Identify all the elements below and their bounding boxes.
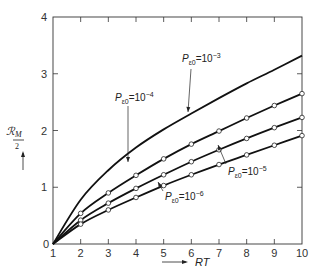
svg-text:Pε0=10−6: Pε0=10−6: [165, 190, 204, 204]
x-tick-label: 1: [50, 247, 56, 259]
data-point-marker: [106, 191, 111, 196]
y-axis-label-den: 2: [15, 142, 19, 151]
y-axis-label-sub: M: [14, 130, 23, 139]
data-point-marker: [217, 129, 222, 134]
data-point-marker: [244, 136, 249, 141]
data-point-marker: [161, 172, 166, 177]
x-tick-label: 3: [105, 247, 111, 259]
data-point-marker: [134, 186, 139, 191]
data-point-marker: [244, 116, 249, 121]
x-tick-label: 9: [271, 247, 277, 259]
data-point-marker: [272, 125, 277, 130]
origin-label: 0: [43, 238, 49, 250]
series-annotations: Pε0=10−3Pε0=10−4Pε0=10−5Pε0=10−6: [115, 52, 267, 204]
y-tick-label: 4: [41, 11, 47, 23]
data-point-marker: [134, 195, 139, 200]
x-tick-label: 2: [78, 247, 84, 259]
x-tick-label: 5: [161, 247, 167, 259]
y-tick-label: 3: [41, 68, 47, 80]
series-annotation: Pε0=10−3: [182, 52, 221, 112]
x-tick-label: 4: [133, 247, 139, 259]
x-tick-label: 10: [296, 247, 308, 259]
data-point-marker: [272, 103, 277, 108]
chart: 1234567891012340 Pε0=10−3Pε0=10−4Pε0=10−…: [0, 0, 314, 279]
data-point-marker: [161, 157, 166, 162]
x-tick-label: 6: [188, 247, 194, 259]
data-point-marker: [300, 115, 305, 120]
data-point-marker: [134, 173, 139, 178]
annotation-arrow-icon: [188, 69, 191, 112]
svg-text:Pε0=10−4: Pε0=10−4: [115, 91, 154, 105]
data-point-marker: [78, 211, 83, 216]
data-point-marker: [189, 159, 194, 164]
data-point-marker: [161, 183, 166, 188]
data-point-marker: [189, 142, 194, 147]
y-tick-label: 2: [41, 125, 47, 137]
data-point-marker: [78, 222, 83, 227]
data-point-marker: [189, 172, 194, 177]
x-axis-label: RT: [162, 256, 211, 268]
data-point-marker: [106, 208, 111, 213]
series-annotation: Pε0=10−4: [115, 91, 154, 162]
data-point-marker: [300, 133, 305, 138]
x-axis-arrowhead-icon: [182, 260, 188, 264]
data-point-marker: [217, 162, 222, 167]
x-tick-label: 7: [216, 247, 222, 259]
data-series: [53, 56, 304, 244]
data-point-marker: [272, 143, 277, 148]
y-axis-arrowhead-icon: [21, 151, 25, 157]
x-axis-label-text: RT: [195, 256, 211, 268]
data-point-marker: [300, 91, 305, 96]
y-axis-label: ℛ M 2: [6, 125, 25, 170]
series-line: [53, 56, 302, 244]
svg-text:Pε0=10−5: Pε0=10−5: [228, 165, 267, 179]
svg-text:Pε0=10−3: Pε0=10−3: [182, 52, 221, 66]
data-point-marker: [244, 153, 249, 158]
data-point-marker: [106, 201, 111, 206]
y-tick-label: 1: [41, 181, 47, 193]
x-tick-label: 8: [244, 247, 250, 259]
